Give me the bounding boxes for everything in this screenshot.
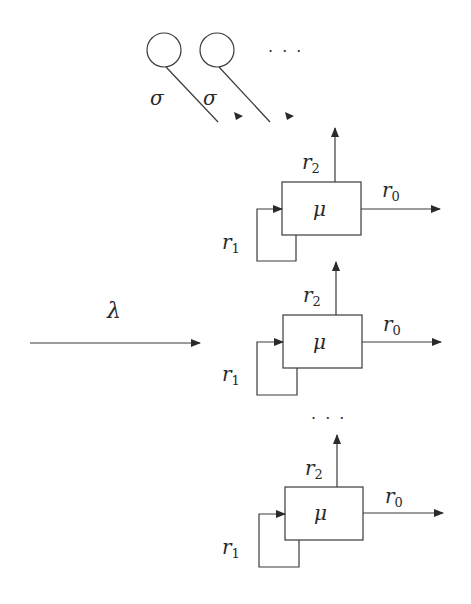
source-node-1: [147, 33, 181, 67]
server-1-up-label: r2: [302, 152, 320, 175]
server-2-up-label: r2: [303, 285, 321, 308]
source-node-2: [200, 33, 234, 67]
queueing-diagram: [0, 0, 471, 604]
server-2-service-label: μ: [313, 332, 326, 352]
server-3-out-label: r0: [385, 486, 403, 509]
server-2-loop-label: r1: [222, 364, 240, 387]
source-line-2: [219, 67, 270, 122]
server-2-out-label: r0: [383, 314, 401, 337]
arrival-rate-label: λ: [107, 300, 121, 322]
servers-ellipsis: · · ·: [311, 411, 346, 427]
sources-ellipsis: · · ·: [268, 44, 303, 60]
server-3-up-label: r2: [305, 458, 323, 481]
source-arrowhead-1: [234, 112, 243, 120]
server-1-loop-label: r1: [222, 232, 240, 255]
server-1-out-label: r0: [382, 180, 400, 203]
server-3-loop-label: r1: [222, 537, 240, 560]
source-2-rate-label: σ: [203, 88, 217, 108]
server-3-service-label: μ: [314, 503, 327, 523]
source-1-rate-label: σ: [150, 88, 164, 108]
source-arrowhead-2: [285, 112, 294, 120]
server-1-service-label: μ: [313, 199, 326, 219]
